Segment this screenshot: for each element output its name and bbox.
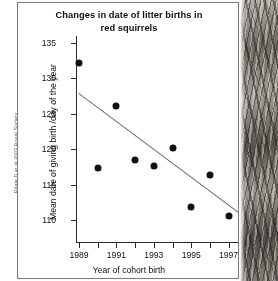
x-axis-tick-label: 1997: [219, 250, 238, 260]
data-point: [76, 59, 83, 66]
y-axis-title-text: Mean date of giving birth /day of the ye…: [48, 64, 58, 220]
trend-line: [78, 93, 239, 219]
y-axis-tick: [71, 149, 77, 150]
data-point: [150, 163, 157, 170]
data-point: [188, 204, 195, 211]
chart-panel: Changes in date of litter births in red …: [17, 2, 239, 279]
data-point: [94, 165, 101, 172]
figure-root: Réale D et al 2003 Royal Society Changes…: [0, 0, 278, 281]
x-axis-line: [76, 242, 239, 243]
y-axis-tick: [71, 220, 77, 221]
x-axis-tick: [210, 242, 211, 248]
x-axis-tick: [98, 242, 99, 248]
x-axis-tick: [79, 242, 80, 248]
y-axis-tick: [71, 114, 77, 115]
photo-texture-overlay: [240, 0, 278, 281]
x-axis-tick-label: 1993: [144, 250, 163, 260]
y-axis-title: Mean date of giving birth /day of the ye…: [42, 62, 60, 222]
x-axis-tick: [173, 242, 174, 248]
x-axis-tick: [191, 242, 192, 248]
y-axis-tick: [71, 185, 77, 186]
x-axis-tick-label: 1991: [107, 250, 126, 260]
chart-title-line-2: red squirrels: [101, 23, 158, 33]
x-axis-tick-label: 1995: [182, 250, 201, 260]
data-point: [113, 103, 120, 110]
y-axis-tick: [71, 43, 77, 44]
plot-area: 11011512012513013519891991199319951997: [59, 35, 239, 247]
data-point: [206, 172, 213, 179]
credit-strip: Réale D et al 2003 Royal Society: [0, 0, 17, 281]
x-axis-title: Year of cohort birth: [28, 265, 230, 275]
x-axis-tick-label: 1989: [69, 250, 88, 260]
y-axis-line: [76, 36, 77, 242]
data-point: [225, 212, 232, 219]
y-axis-tick-label: 135: [42, 38, 56, 48]
photo-edge-fade: [240, 0, 245, 281]
chart-title: Changes in date of litter births in red …: [28, 9, 230, 34]
x-axis-tick: [135, 242, 136, 248]
data-point: [169, 144, 176, 151]
squirrel-photo-strip: [240, 0, 278, 281]
x-axis-tick: [116, 242, 117, 248]
data-point: [132, 156, 139, 163]
chart-title-line-1: Changes in date of litter births in: [56, 10, 203, 20]
y-axis-tick: [71, 78, 77, 79]
x-axis-tick: [229, 242, 230, 248]
x-axis-tick: [154, 242, 155, 248]
